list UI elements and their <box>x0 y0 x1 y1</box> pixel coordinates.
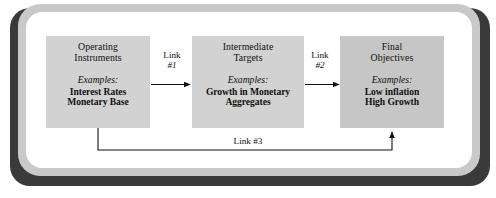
example-item: Monetary Base <box>46 97 150 108</box>
link-2-label: Link #2 <box>300 50 340 70</box>
example-item: Aggregates <box>192 97 304 108</box>
box-intermediate-targets[interactable]: Intermediate Targets Examples: Growth in… <box>192 36 304 128</box>
box-title-line: Instruments <box>46 53 150 64</box>
box-title-line: Targets <box>192 53 304 64</box>
link-2-word: Link <box>300 50 340 60</box>
link-2-number: #2 <box>300 60 340 70</box>
box-final-objectives[interactable]: Final Objectives Examples: Low inflation… <box>340 36 444 128</box>
link-1-word: Link <box>152 50 192 60</box>
examples-label: Examples: <box>192 75 304 86</box>
box-title: Intermediate Targets <box>192 42 304 64</box>
link-1-number: #1 <box>152 60 192 70</box>
box-title: Final Objectives <box>340 42 444 64</box>
example-item: High Growth <box>340 97 444 108</box>
examples-label: Examples: <box>46 75 150 86</box>
diagram-figure: Operating Instruments Examples: Interest… <box>0 0 496 198</box>
box-title-line: Objectives <box>340 53 444 64</box>
box-title: Operating Instruments <box>46 42 150 64</box>
examples-label: Examples: <box>340 75 444 86</box>
link-1-label: Link #1 <box>152 50 192 70</box>
box-operating-instruments[interactable]: Operating Instruments Examples: Interest… <box>46 36 150 128</box>
link-3-label: Link #3 <box>205 136 291 146</box>
